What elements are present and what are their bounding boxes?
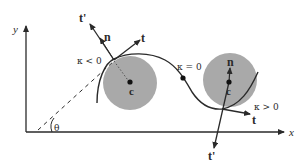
right-normal-label: n — [227, 55, 234, 69]
right-center-dot — [226, 79, 231, 84]
left-rotated-tangent-label: t' — [79, 11, 86, 25]
left-curvature-label: κ < 0 — [77, 56, 102, 66]
right-rotated-tangent-label: t' — [208, 149, 215, 163]
left-normal-label: n — [104, 30, 111, 44]
left-center-dot — [127, 79, 132, 84]
left-center-label: c — [129, 85, 134, 97]
y-axis-label: y — [12, 23, 18, 35]
inflection-curvature-label: κ = 0 — [177, 62, 202, 72]
inflection-point-dot — [180, 75, 185, 80]
theta-label: θ — [54, 123, 59, 133]
curvature-diagram: y x θ t' n t κ < 0 c κ = 0 n c κ > 0 t t… — [0, 0, 307, 166]
right-center-label: c — [226, 85, 231, 97]
right-curvature-label: κ > 0 — [254, 102, 279, 112]
left-tangent-label: t — [141, 31, 145, 45]
right-tangent-arrow — [222, 109, 250, 114]
right-tangent-label: t — [252, 113, 256, 127]
x-axis-label: x — [288, 126, 294, 138]
